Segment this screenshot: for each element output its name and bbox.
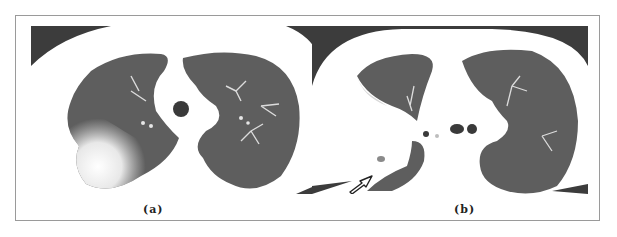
panel-caption-a: (a) [143,203,164,216]
ct-image-a [31,26,319,194]
figure-frame: (a) (b) [15,15,600,221]
panel-caption-b: (b) [454,203,475,216]
ct-image-b [312,26,588,194]
ct-panel-a [31,26,319,194]
ct-panel-b [312,26,588,194]
arrow-pointer-icon [346,172,376,194]
